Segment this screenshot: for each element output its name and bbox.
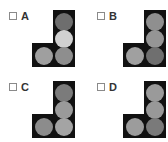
- circle-middle: [55, 30, 73, 48]
- circle-bottom-left: [126, 47, 144, 65]
- circle-bottom-right: [146, 118, 164, 136]
- option-label: C: [21, 82, 29, 93]
- circle-top: [55, 84, 73, 102]
- checkbox[interactable]: [97, 83, 105, 91]
- option-a[interactable]: A: [0, 0, 84, 71]
- option-label: A: [21, 11, 29, 22]
- circle-bottom-left: [35, 118, 53, 136]
- option-b[interactable]: B: [84, 0, 168, 71]
- circle-middle: [146, 101, 164, 119]
- checkbox[interactable]: [97, 12, 105, 20]
- circle-bottom-left: [35, 47, 53, 65]
- circle-bottom-left: [126, 118, 144, 136]
- checkbox[interactable]: [9, 83, 17, 91]
- option-c[interactable]: C: [0, 71, 84, 142]
- option-label: B: [109, 11, 117, 22]
- circle-middle: [55, 101, 73, 119]
- circle-bottom-right: [55, 118, 73, 136]
- circle-top: [146, 84, 164, 102]
- circle-bottom-right: [55, 47, 73, 65]
- circle-middle: [146, 30, 164, 48]
- circle-top: [55, 13, 73, 31]
- checkbox[interactable]: [9, 12, 17, 20]
- option-label: D: [109, 82, 117, 93]
- circle-top: [146, 13, 164, 31]
- option-d[interactable]: D: [84, 71, 168, 142]
- circle-bottom-right: [146, 47, 164, 65]
